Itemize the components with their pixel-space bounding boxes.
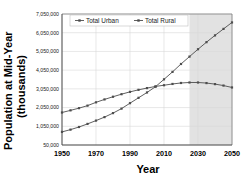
data-point bbox=[61, 111, 63, 113]
legend-label: Total Urban bbox=[86, 17, 119, 24]
data-point bbox=[120, 93, 122, 95]
legend-marker bbox=[78, 19, 80, 21]
x-tick-label: 2030 bbox=[190, 149, 206, 158]
data-point bbox=[197, 48, 199, 50]
data-point bbox=[61, 131, 63, 133]
data-point bbox=[137, 89, 139, 91]
data-point bbox=[205, 41, 207, 43]
y-tick-label: 3,050,000 bbox=[36, 86, 59, 92]
data-point bbox=[146, 91, 148, 93]
data-point bbox=[222, 28, 224, 30]
data-point bbox=[86, 123, 88, 125]
chart-container: 50,0001,050,0002,050,0003,050,0004,050,0… bbox=[0, 0, 242, 177]
x-tick-label: 2050 bbox=[224, 149, 240, 158]
population-line-chart: 50,0001,050,0002,050,0003,050,0004,050,0… bbox=[0, 0, 242, 177]
data-point bbox=[120, 108, 122, 110]
chart-legend: Total UrbanTotal Rural bbox=[70, 15, 188, 26]
legend-marker bbox=[137, 19, 139, 21]
data-point bbox=[146, 87, 148, 89]
data-point bbox=[180, 63, 182, 65]
x-axis-title: Year bbox=[136, 163, 160, 175]
x-tick-label: 1990 bbox=[122, 149, 138, 158]
x-tick-label: 2010 bbox=[156, 149, 172, 158]
data-point bbox=[171, 83, 173, 85]
data-point bbox=[112, 112, 114, 114]
data-point bbox=[103, 116, 105, 118]
data-point bbox=[86, 105, 88, 107]
data-point bbox=[163, 78, 165, 80]
data-point bbox=[154, 85, 156, 87]
data-point bbox=[78, 107, 80, 109]
y-axis-title-line2: (thousands) bbox=[15, 55, 27, 118]
y-tick-label: 7,050,000 bbox=[36, 11, 59, 17]
data-point bbox=[95, 101, 97, 103]
data-point bbox=[188, 55, 190, 57]
data-point bbox=[214, 83, 216, 85]
y-tick-label: 1,050,000 bbox=[36, 123, 59, 129]
x-tick-label: 1970 bbox=[88, 149, 104, 158]
legend-label: Total Rural bbox=[145, 17, 176, 24]
data-point bbox=[197, 81, 199, 83]
data-point bbox=[129, 91, 131, 93]
data-point bbox=[222, 84, 224, 86]
data-point bbox=[112, 96, 114, 98]
data-point bbox=[78, 126, 80, 128]
data-point bbox=[231, 86, 233, 88]
data-point bbox=[180, 82, 182, 84]
data-point bbox=[205, 82, 207, 84]
data-point bbox=[188, 81, 190, 83]
data-point bbox=[231, 21, 233, 23]
data-point bbox=[214, 34, 216, 36]
data-point bbox=[129, 102, 131, 104]
y-tick-label: 5,050,000 bbox=[36, 48, 59, 54]
data-point bbox=[69, 129, 71, 131]
data-point bbox=[69, 109, 71, 111]
data-point bbox=[95, 119, 97, 121]
projection-shaded-region bbox=[190, 14, 233, 145]
y-axis-title-line1: Population at Mid-Year bbox=[2, 31, 14, 150]
data-point bbox=[137, 97, 139, 99]
x-tick-label: 1950 bbox=[54, 149, 70, 158]
y-tick-label: 50,000 bbox=[43, 142, 59, 148]
y-tick-label: 2,050,000 bbox=[36, 104, 59, 110]
y-tick-label: 6,050,000 bbox=[36, 30, 59, 36]
data-point bbox=[171, 71, 173, 73]
data-point bbox=[163, 84, 165, 86]
data-point bbox=[103, 98, 105, 100]
y-tick-label: 4,050,000 bbox=[36, 67, 59, 73]
